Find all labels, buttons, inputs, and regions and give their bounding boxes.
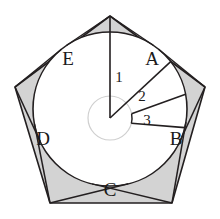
region-label-b: B: [170, 128, 183, 149]
region-label-a: A: [145, 48, 159, 69]
hub-arc: [131, 114, 132, 124]
sector-label-3: 3: [143, 112, 151, 128]
region-label-c: C: [104, 179, 117, 200]
sector-label-1: 1: [115, 69, 123, 85]
figure-container: ABCDE123: [0, 0, 220, 219]
region-label-e: E: [62, 48, 74, 69]
region-label-d: D: [36, 128, 50, 149]
sector-label-2: 2: [138, 88, 146, 104]
pentagon-sector-diagram: ABCDE123: [0, 0, 220, 219]
